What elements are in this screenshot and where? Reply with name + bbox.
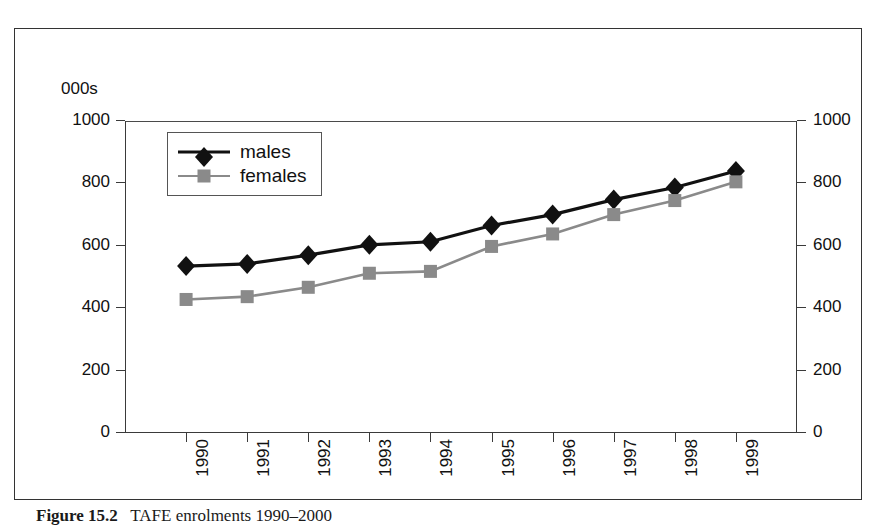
y-tick-mark-left: [116, 432, 125, 433]
y-axis-label-right: 200: [813, 360, 841, 380]
y-axis-label-left: 1000: [72, 110, 110, 130]
y-axis-label-right: 0: [813, 422, 822, 442]
y-tick-mark-left: [116, 245, 125, 246]
y-tick-mark-left: [116, 307, 125, 308]
y-axis-label-left: 600: [82, 235, 110, 255]
y-axis-label-left: 200: [82, 360, 110, 380]
y-tick-mark-right: [797, 245, 806, 246]
x-axis-label-1995: 1995: [499, 439, 519, 477]
data-point-females-1999: [729, 175, 742, 188]
y-axis-label-left: 800: [82, 172, 110, 192]
y-tick-mark-right: [797, 120, 806, 121]
chart-legend: malesfemales: [167, 132, 322, 196]
data-point-males-1997: [605, 190, 623, 210]
y-axis-label-left: 400: [82, 297, 110, 317]
data-point-males-1991: [238, 254, 256, 274]
caption-text: TAFE enrolments 1990–2000: [130, 506, 332, 525]
x-tick-mark-1991: [247, 433, 248, 442]
data-point-males-1990: [177, 256, 195, 276]
data-point-males-1992: [299, 245, 317, 265]
data-point-females-1996: [546, 227, 559, 240]
x-axis-label-1997: 1997: [621, 439, 641, 477]
legend-marker-square-icon: [198, 170, 211, 183]
y-axis-label-right: 400: [813, 297, 841, 317]
y-axis-label-right: 1000: [813, 110, 851, 130]
data-point-males-1994: [421, 232, 439, 252]
y-tick-mark-left: [116, 182, 125, 183]
data-point-females-1993: [363, 267, 376, 280]
data-point-males-1995: [483, 216, 501, 236]
x-axis-label-1990: 1990: [193, 439, 213, 477]
y-tick-mark-right: [797, 182, 806, 183]
series-line-females: [186, 182, 736, 300]
data-point-females-1994: [424, 265, 437, 278]
y-tick-mark-left: [116, 120, 125, 121]
y-tick-mark-left: [116, 370, 125, 371]
caption-label: Figure 15.2: [36, 506, 118, 525]
x-axis-label-1991: 1991: [254, 439, 274, 477]
x-tick-mark-1992: [308, 433, 309, 442]
legend-label-males: males: [240, 141, 291, 163]
legend-swatch-males: [178, 141, 230, 163]
x-tick-mark-1990: [186, 433, 187, 442]
x-axis-label-1996: 1996: [560, 439, 580, 477]
legend-marker-diamond-icon: [195, 147, 213, 157]
y-tick-mark-right: [797, 370, 806, 371]
data-point-females-1992: [302, 281, 315, 294]
legend-label-females: females: [240, 165, 307, 187]
data-point-females-1998: [668, 194, 681, 207]
x-axis-label-1993: 1993: [376, 439, 396, 477]
data-point-females-1990: [180, 293, 193, 306]
y-axis-label-right: 800: [813, 172, 841, 192]
x-axis-label-1998: 1998: [682, 439, 702, 477]
x-tick-mark-1994: [430, 433, 431, 442]
x-axis-label-1992: 1992: [315, 439, 335, 477]
x-tick-mark-1997: [614, 433, 615, 442]
x-axis-label-1994: 1994: [437, 439, 457, 477]
y-axis-label-left: 0: [101, 422, 110, 442]
y-axis-units-label: 000s: [61, 79, 98, 99]
y-tick-mark-right: [797, 432, 806, 433]
data-point-females-1995: [485, 240, 498, 253]
x-tick-mark-1999: [736, 433, 737, 442]
figure-caption: Figure 15.2 TAFE enrolments 1990–2000: [36, 506, 332, 526]
x-axis-label-1999: 1999: [743, 439, 763, 477]
figure-frame: 000s 0020020040040060060080080010001000 …: [14, 28, 862, 500]
data-point-males-1993: [360, 235, 378, 255]
x-tick-mark-1993: [369, 433, 370, 442]
data-point-females-1991: [241, 290, 254, 303]
x-tick-mark-1996: [553, 433, 554, 442]
y-tick-mark-right: [797, 307, 806, 308]
legend-item-males: males: [178, 140, 307, 164]
data-point-males-1996: [544, 205, 562, 225]
legend-item-females: females: [178, 164, 307, 188]
data-point-females-1997: [607, 208, 620, 221]
legend-swatch-females: [178, 165, 230, 187]
y-axis-label-right: 600: [813, 235, 841, 255]
x-tick-mark-1995: [492, 433, 493, 442]
x-tick-mark-1998: [675, 433, 676, 442]
